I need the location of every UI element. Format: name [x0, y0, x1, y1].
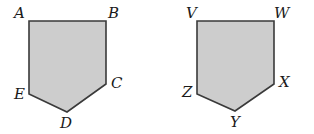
vertex-label-d: D — [59, 114, 72, 132]
vertex-label-a: A — [12, 4, 25, 22]
vertex-label-e: E — [13, 85, 25, 103]
vertex-label-w: W — [274, 4, 291, 22]
figure-pentagon-abcde: A B C D E — [12, 4, 123, 132]
vertex-label-v: V — [186, 4, 199, 22]
vertex-label-b: B — [107, 4, 119, 22]
figure-pentagon-vwxyz: V W X Y Z — [181, 4, 291, 131]
vertex-label-y: Y — [230, 113, 242, 131]
vertex-label-x: X — [278, 73, 291, 91]
vertex-label-c: C — [111, 74, 123, 92]
pentagon-abcde-shape — [29, 21, 106, 112]
diagram-canvas: A B C D E V W X Y Z — [0, 0, 314, 134]
vertex-label-z: Z — [181, 83, 193, 101]
pentagon-vwxyz-shape — [197, 21, 274, 111]
